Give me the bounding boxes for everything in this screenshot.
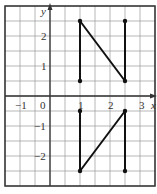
coordinate-grid-diagram: y x 0 −1 1 2 3 2 1 −1 −2	[0, 0, 157, 194]
y-tick-label: −2	[34, 150, 46, 162]
vertex-point	[78, 19, 82, 23]
vertex-point	[123, 109, 127, 113]
y-tick-label: 2	[41, 30, 47, 42]
vertex-point	[123, 169, 127, 173]
vertex-point	[78, 109, 82, 113]
vertex-point	[123, 79, 127, 83]
x-axis-arrow-icon	[150, 94, 157, 99]
y-tick-label: 1	[41, 60, 47, 72]
y-tick-label: −1	[34, 120, 46, 132]
x-tick-label: 2	[108, 99, 114, 111]
vertex-point	[78, 79, 82, 83]
y-axis-label: y	[40, 5, 46, 17]
vertex-point	[78, 169, 82, 173]
x-tick-label: −1	[15, 99, 27, 111]
vertex-point	[123, 19, 127, 23]
origin-label: 0	[40, 99, 46, 111]
x-tick-label: 3	[139, 99, 145, 111]
x-axis-label: x	[150, 99, 156, 111]
